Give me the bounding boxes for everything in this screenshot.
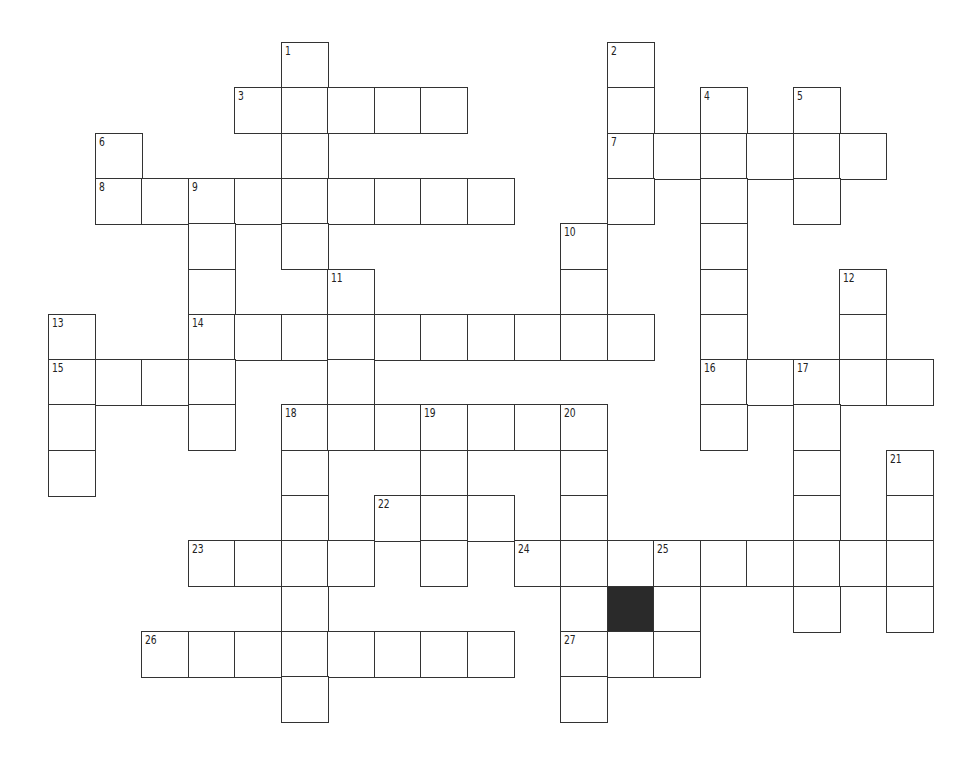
grid-cell[interactable] [467,495,515,542]
grid-cell[interactable] [420,314,468,361]
grid-cell[interactable] [560,540,608,587]
numbered-cell[interactable]: 3 [234,87,282,134]
grid-cell[interactable] [188,404,236,451]
grid-cell[interactable] [281,495,329,542]
grid-cell[interactable] [281,450,329,497]
numbered-cell[interactable]: 12 [839,269,887,316]
grid-cell[interactable] [560,450,608,497]
grid-cell[interactable] [607,314,655,361]
numbered-cell[interactable]: 5 [793,87,841,134]
grid-cell[interactable] [234,178,282,225]
grid-cell[interactable] [281,586,329,633]
grid-cell[interactable] [793,540,841,587]
grid-cell[interactable] [886,359,934,406]
grid-cell[interactable] [653,133,701,180]
grid-cell[interactable] [420,631,468,678]
grid-cell[interactable] [607,631,655,678]
numbered-cell[interactable]: 4 [700,87,748,134]
grid-cell[interactable] [700,540,748,587]
numbered-cell[interactable]: 21 [886,450,934,497]
grid-cell[interactable] [746,359,794,406]
grid-cell[interactable] [746,133,794,180]
grid-cell[interactable] [374,631,422,678]
grid-cell[interactable] [700,404,748,451]
grid-cell[interactable] [327,359,375,406]
numbered-cell[interactable]: 6 [95,133,143,180]
grid-cell[interactable] [793,495,841,542]
numbered-cell[interactable]: 26 [141,631,189,678]
grid-cell[interactable] [374,404,422,451]
grid-cell[interactable] [327,87,375,134]
grid-cell[interactable] [793,178,841,225]
grid-cell[interactable] [281,540,329,587]
grid-cell[interactable] [188,269,236,316]
numbered-cell[interactable]: 16 [700,359,748,406]
numbered-cell[interactable]: 8 [95,178,143,225]
grid-cell[interactable] [839,314,887,361]
grid-cell[interactable] [560,495,608,542]
grid-cell[interactable] [188,631,236,678]
numbered-cell[interactable]: 25 [653,540,701,587]
grid-cell[interactable] [420,87,468,134]
numbered-cell[interactable]: 10 [560,223,608,270]
grid-cell[interactable] [793,404,841,451]
numbered-cell[interactable]: 17 [793,359,841,406]
grid-cell[interactable] [141,359,189,406]
grid-cell[interactable] [700,178,748,225]
grid-cell[interactable] [281,631,329,678]
grid-cell[interactable] [793,586,841,633]
numbered-cell[interactable]: 11 [327,269,375,316]
grid-cell[interactable] [48,450,96,497]
numbered-cell[interactable]: 23 [188,540,236,587]
numbered-cell[interactable]: 2 [607,42,655,89]
numbered-cell[interactable]: 9 [188,178,236,225]
grid-cell[interactable] [188,223,236,270]
grid-cell[interactable] [886,586,934,633]
grid-cell[interactable] [839,133,887,180]
grid-cell[interactable] [700,269,748,316]
grid-cell[interactable] [327,540,375,587]
numbered-cell[interactable]: 1 [281,42,329,89]
grid-cell[interactable] [281,87,329,134]
grid-cell[interactable] [95,359,143,406]
numbered-cell[interactable]: 7 [607,133,655,180]
grid-cell[interactable] [281,178,329,225]
grid-cell[interactable] [327,178,375,225]
grid-cell[interactable] [420,495,468,542]
grid-cell[interactable] [746,540,794,587]
numbered-cell[interactable]: 27 [560,631,608,678]
grid-cell[interactable] [234,540,282,587]
grid-cell[interactable] [281,133,329,180]
grid-cell[interactable] [514,404,562,451]
grid-cell[interactable] [281,314,329,361]
grid-cell[interactable] [700,133,748,180]
grid-cell[interactable] [839,540,887,587]
grid-cell[interactable] [374,178,422,225]
grid-cell[interactable] [141,178,189,225]
numbered-cell[interactable]: 18 [281,404,329,451]
grid-cell[interactable] [560,676,608,723]
grid-cell[interactable] [560,314,608,361]
grid-cell[interactable] [653,586,701,633]
grid-cell[interactable] [607,178,655,225]
grid-cell[interactable] [234,314,282,361]
numbered-cell[interactable]: 14 [188,314,236,361]
grid-cell[interactable] [700,314,748,361]
grid-cell[interactable] [188,359,236,406]
grid-cell[interactable] [420,540,468,587]
grid-cell[interactable] [234,631,282,678]
grid-cell[interactable] [467,314,515,361]
grid-cell[interactable] [560,269,608,316]
grid-cell[interactable] [374,87,422,134]
grid-cell[interactable] [420,178,468,225]
grid-cell[interactable] [560,586,608,633]
grid-cell[interactable] [281,676,329,723]
grid-cell[interactable] [793,133,841,180]
grid-cell[interactable] [327,404,375,451]
grid-cell[interactable] [467,404,515,451]
grid-cell[interactable] [607,87,655,134]
grid-cell[interactable] [467,631,515,678]
grid-cell[interactable] [374,314,422,361]
grid-cell[interactable] [327,631,375,678]
numbered-cell[interactable]: 13 [48,314,96,361]
